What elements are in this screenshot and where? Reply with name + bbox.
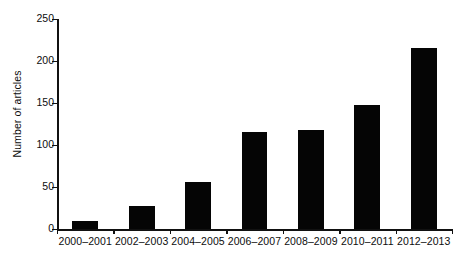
y-axis-tick-label: 50 — [42, 180, 54, 192]
x-axis-spine — [57, 229, 452, 231]
plot-area: 050100150200250 — [57, 19, 452, 229]
x-axis-tick-label: 2004–2005 — [170, 234, 226, 250]
y-axis-spine — [57, 19, 59, 229]
x-axis-tick-label: 2010–2011 — [339, 234, 395, 250]
y-axis-title: Number of articles — [11, 54, 23, 174]
bar — [129, 206, 155, 229]
x-axis-tick-label: 2002–2003 — [113, 234, 169, 250]
y-axis-tick-label: 200 — [36, 54, 54, 66]
bar-chart: Number of articles 050100150200250 2000–… — [0, 0, 470, 261]
y-axis-tick-label: 250 — [36, 12, 54, 24]
bar — [72, 221, 98, 229]
x-axis-tick-label: 2008–2009 — [283, 234, 339, 250]
x-axis-tick-labels: 2000–20012002–20032004–20052006–20072008… — [57, 234, 452, 250]
y-axis-tick-label: 0 — [48, 222, 54, 234]
bar — [411, 48, 437, 229]
bar — [354, 105, 380, 229]
y-axis-tick-label: 100 — [36, 138, 54, 150]
x-axis-tick-label: 2006–2007 — [226, 234, 282, 250]
bar — [242, 132, 268, 229]
x-axis-tick-mark — [452, 229, 453, 234]
x-axis-tick-label: 2000–2001 — [57, 234, 113, 250]
bar — [298, 130, 324, 229]
x-axis-tick-label: 2012–2013 — [396, 234, 452, 250]
bar — [185, 182, 211, 229]
y-axis-tick-label: 150 — [36, 96, 54, 108]
